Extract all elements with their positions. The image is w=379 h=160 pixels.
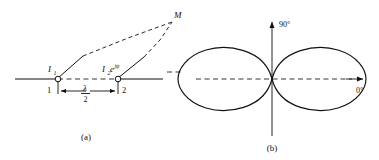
panel-b-caption: (b) — [267, 143, 278, 153]
panel-a-geometry: M I 1 I 2 e jψ λ — [15, 10, 182, 142]
source1-current-subscript: 1 — [54, 70, 57, 76]
ray-source1-dashed — [83, 22, 172, 56]
source2-current-symbol: I — [101, 64, 106, 74]
vertical-axis-label: 90° — [279, 20, 290, 29]
spacing-fraction: λ 2 — [81, 83, 90, 104]
spacing-denominator: 2 — [84, 95, 88, 104]
panel-a-caption: (a) — [81, 132, 91, 142]
panel-b-pattern: 90° 0° (b) — [178, 20, 366, 153]
source1-current-label: I 1 — [47, 64, 57, 76]
figure-svg: M I 1 I 2 e jψ λ — [0, 0, 379, 160]
source2-index-label: 2 — [122, 85, 126, 95]
source2-current-label: I 2 e jψ — [101, 63, 120, 76]
source2-exponential-exponent: jψ — [114, 63, 121, 69]
source1-node-marker[interactable] — [55, 76, 61, 82]
source1-current-symbol: I — [47, 64, 52, 74]
ray-source2-solid — [118, 57, 144, 78]
observation-point-label: M — [173, 10, 182, 20]
figure-container: M I 1 I 2 e jψ λ — [0, 0, 379, 160]
horizontal-axis-label: 0° — [356, 86, 363, 95]
spacing-numerator: λ — [82, 83, 87, 93]
source2-exponential-base: e — [110, 64, 114, 74]
ray-source1-solid — [58, 56, 83, 78]
source2-node-marker[interactable] — [115, 76, 121, 82]
source1-index-label: 1 — [47, 85, 51, 95]
